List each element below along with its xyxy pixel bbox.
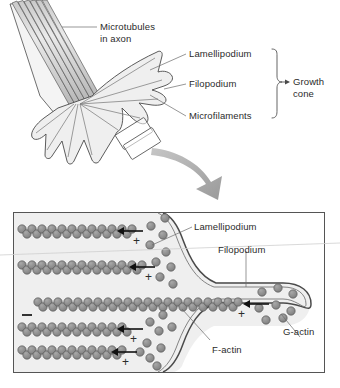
g-actin-monomer <box>147 222 155 230</box>
g-actin-monomer <box>153 362 161 370</box>
g-actin-monomer <box>159 311 167 319</box>
g-actin-monomer <box>287 307 295 315</box>
bottom-panel-artwork <box>0 213 340 373</box>
g-actin-monomer <box>167 263 175 271</box>
plus-end-4: + <box>130 334 137 346</box>
g-actin-monomer <box>262 316 270 324</box>
g-actin-monomer <box>274 284 282 292</box>
label-f-actin: F-actin <box>212 344 242 356</box>
label-filopodium-detail: Filopodium <box>218 244 265 256</box>
label-growth-cone: Growth cone <box>293 76 324 99</box>
label-microfilaments: Microfilaments <box>189 110 252 122</box>
g-actin-monomer <box>136 348 144 356</box>
plus-end-2: + <box>145 272 152 284</box>
label-filopodium-top: Filopodium <box>189 78 236 90</box>
g-actin-monomer <box>146 354 154 362</box>
label-growth-cone-line2: cone <box>293 88 314 99</box>
magnification-arrow <box>151 148 222 200</box>
g-actin-monomer <box>255 304 263 312</box>
g-actin-monomer <box>152 258 160 266</box>
label-lamellipodium-detail: Lamellipodium <box>194 221 257 233</box>
g-actin-monomer <box>169 280 177 288</box>
g-actin-monomer <box>146 241 154 249</box>
label-microtubules-line1: Microtubules <box>100 21 155 32</box>
g-actin-monomer <box>168 323 176 331</box>
g-actin-monomer <box>279 314 287 322</box>
figure-root: Microtubules in axon Lamellipodium Filop… <box>0 0 340 388</box>
g-actin-monomer <box>272 301 280 309</box>
plus-end-5: + <box>122 357 129 369</box>
g-actin-monomer <box>143 339 151 347</box>
label-microtubules-line2: in axon <box>100 33 131 44</box>
g-actin-monomer <box>155 327 163 335</box>
g-actin-monomer <box>258 288 266 296</box>
g-actin-monomer <box>157 344 165 352</box>
g-actin-monomer <box>159 231 167 239</box>
label-growth-cone-line1: Growth <box>293 76 324 87</box>
g-actin-monomer <box>156 273 164 281</box>
g-actin-monomer <box>289 290 297 298</box>
growth-cone-brace <box>272 49 290 118</box>
g-actin-monomer <box>161 214 169 222</box>
label-g-actin: G-actin <box>283 326 314 338</box>
label-lamellipodium-top: Lamellipodium <box>189 48 252 60</box>
f-actin-filament-4 <box>18 323 131 336</box>
label-microtubules: Microtubules in axon <box>100 21 155 44</box>
g-actin-monomer <box>146 318 154 326</box>
plus-end-1: + <box>133 236 140 248</box>
plus-end-3: + <box>238 309 245 321</box>
